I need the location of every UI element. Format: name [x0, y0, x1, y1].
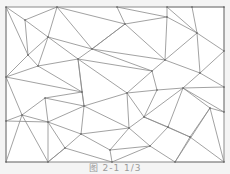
mesh-vertex — [128, 127, 130, 129]
mesh-vertex — [37, 65, 39, 67]
mesh-vertex — [209, 107, 211, 109]
mesh-vertex — [223, 50, 225, 52]
mesh-vertex — [64, 147, 66, 149]
mesh-vertex — [109, 149, 111, 151]
triangulation-diagram — [0, 0, 230, 174]
mesh-vertex — [223, 111, 225, 113]
mesh-vertex — [5, 6, 7, 8]
mesh-vertex — [223, 86, 225, 88]
mesh-vertex — [5, 120, 7, 122]
mesh-vertex — [156, 89, 158, 91]
mesh-vertex — [47, 36, 49, 38]
mesh-vertex — [21, 114, 23, 116]
mesh-vertex — [149, 145, 151, 147]
mesh-vertex — [124, 23, 126, 25]
mesh-vertex — [44, 97, 46, 99]
mesh-vertex — [191, 6, 193, 8]
figure-caption: 图 2-1 1/3 — [0, 163, 230, 174]
mesh-vertex — [116, 6, 118, 8]
mesh-vertex — [199, 72, 201, 74]
mesh-vertex — [83, 105, 85, 107]
mesh-vertex — [167, 126, 169, 128]
mesh-vertex — [166, 16, 168, 18]
mesh-vertex — [24, 19, 26, 21]
mesh-vertex — [223, 6, 225, 8]
mesh-vertex — [91, 48, 93, 50]
mesh-vertex — [126, 92, 128, 94]
mesh-vertex — [77, 58, 79, 60]
mesh-vertex — [151, 70, 153, 72]
mesh-vertex — [5, 76, 7, 78]
mesh-vertex — [166, 6, 168, 8]
mesh-vertex — [182, 87, 184, 89]
mesh-vertex — [196, 32, 198, 34]
mesh-vertex — [164, 59, 166, 61]
mesh-vertex — [80, 133, 82, 135]
mesh-vertex — [56, 6, 58, 8]
mesh-vertex — [143, 116, 145, 118]
mesh-vertex — [81, 91, 83, 93]
mesh-vertex — [47, 121, 49, 123]
mesh-vertex — [27, 54, 29, 56]
mesh-vertex — [189, 136, 191, 138]
